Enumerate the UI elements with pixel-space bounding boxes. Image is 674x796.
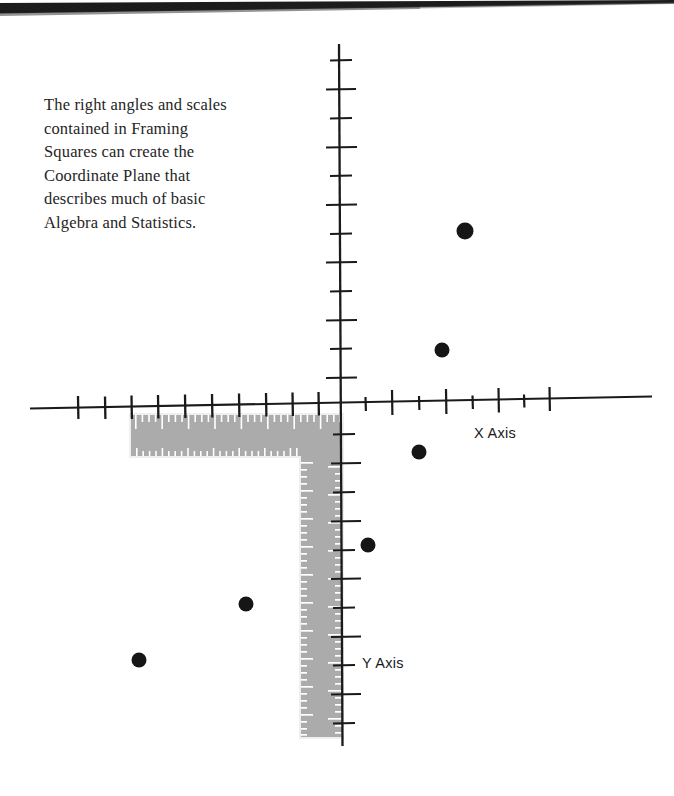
data-point xyxy=(412,445,427,460)
data-point xyxy=(457,223,474,240)
data-point xyxy=(435,343,450,358)
y-axis-label: Y Axis xyxy=(362,655,404,671)
scan-edge-band xyxy=(0,0,674,16)
data-point xyxy=(132,653,147,668)
data-point xyxy=(361,538,376,553)
caption-text: The right angles and scales contained in… xyxy=(44,93,259,234)
data-point xyxy=(239,597,254,612)
x-axis-label: X Axis xyxy=(474,425,516,441)
framing-square xyxy=(129,413,344,739)
scanned-page: The right angles and scales contained in… xyxy=(0,0,674,796)
